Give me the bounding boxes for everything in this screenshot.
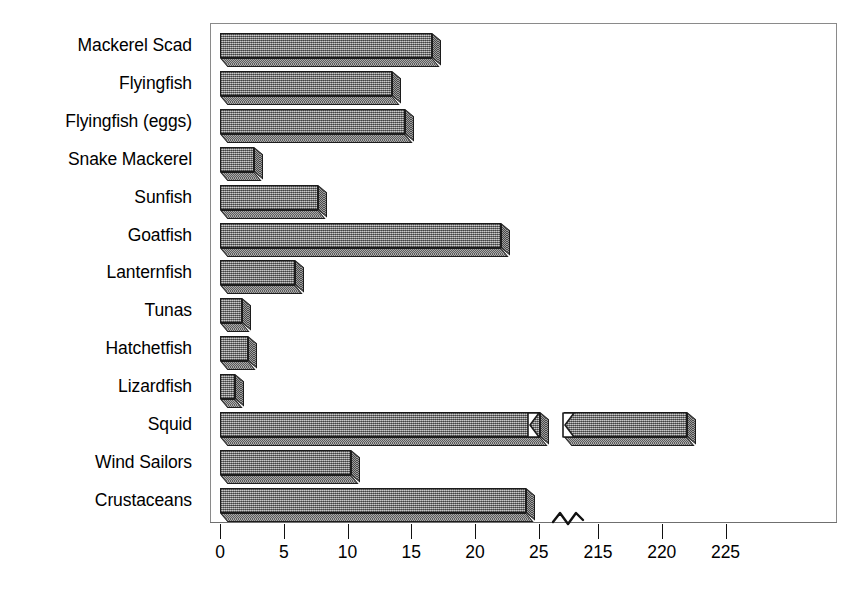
category-label: Crustaceans [0,490,192,510]
bar-bottom-face [220,513,534,522]
bar-break-zigzag-left [527,412,541,446]
category-label: Mackerel Scad [0,35,192,55]
bar-front-face [220,223,501,248]
category-label: Lanternfish [0,262,192,282]
bar-bottom-face [220,210,326,219]
bar-front-face [220,374,235,399]
bar-bottom-face [220,285,303,294]
bar-bottom-face [220,58,439,67]
category-label: Sunfish [0,187,192,207]
bar-flyingfish-eggs [220,109,414,143]
bar-flyingfish [220,71,401,105]
axis-tick [348,524,349,539]
bar-front-face [220,109,405,134]
axis-line [210,522,837,523]
plot-frame-left [210,23,211,522]
axis-tick [726,524,727,539]
bar-bottom-face [220,248,508,257]
bar-front-face [220,412,540,437]
bar-goatfish [220,223,510,257]
bar-bottom-face [564,437,695,446]
bar-front-face [220,488,526,513]
bar-hatchetfish [220,336,257,370]
category-label: Squid [0,414,192,434]
bar-lanternfish [220,260,304,294]
bar-sunfish [220,185,327,219]
plot-frame-top [210,23,837,24]
bar-squid-right-segment [564,412,696,446]
bar-squid-left-segment [220,412,549,446]
bar-front-face [220,298,242,323]
bar-tunas [220,298,251,332]
bar-bottom-face [220,437,548,446]
category-label: Hatchetfish [0,338,192,358]
bar-front-face [220,336,248,361]
category-label: Snake Mackerel [0,149,192,169]
bar-break-zigzag-right [562,412,576,446]
bar-front-face [220,147,254,172]
axis-tick-label: 25 [529,542,548,562]
axis-tick-label: 0 [215,542,225,562]
bar-wind-sailors [220,450,360,484]
chart-page: Mackerel ScadFlyingfishFlyingfish (eggs)… [0,0,865,595]
bar-front-face [220,185,318,210]
bar-snake-mackerel [220,147,263,181]
category-label: Wind Sailors [0,452,192,472]
bar-bottom-face [220,96,400,105]
axis-tick-label: 10 [338,542,357,562]
bar-front-face [220,260,295,285]
category-axis-labels: Mackerel ScadFlyingfishFlyingfish (eggs)… [0,0,200,522]
axis-tick [411,524,412,539]
category-label: Flyingfish (eggs) [0,111,192,131]
category-label: Flyingfish [0,73,192,93]
axis-tick [598,524,599,539]
bar-bottom-face [220,475,359,484]
axis-tick-label: 215 [583,542,612,562]
category-label: Goatfish [0,225,192,245]
bar-front-face [220,33,432,58]
category-label: Lizardfish [0,376,192,396]
axis-tick-label: 225 [711,542,740,562]
axis-tick [662,524,663,539]
axis-tick-label: 5 [279,542,289,562]
bar-bottom-face [220,134,412,143]
plot-area [210,23,837,522]
axis-tick [539,524,540,539]
category-label: Tunas [0,300,192,320]
axis-tick [475,524,476,539]
bar-lizardfish [220,374,244,408]
axis-tick-label: 15 [402,542,421,562]
axis-tick [220,524,221,539]
bar-mackerel-scad [220,33,441,67]
bar-crustaceans [220,488,535,522]
value-axis: 0510152025215220225 [210,522,837,595]
bar-front-face [220,71,392,96]
axis-tick-label: 220 [647,542,676,562]
bar-front-face [220,450,351,475]
bar-front-face [564,412,687,437]
plot-frame-right [836,23,837,522]
axis-tick-label: 20 [465,542,484,562]
axis-tick [284,524,285,539]
axis-break-icon [551,508,585,530]
